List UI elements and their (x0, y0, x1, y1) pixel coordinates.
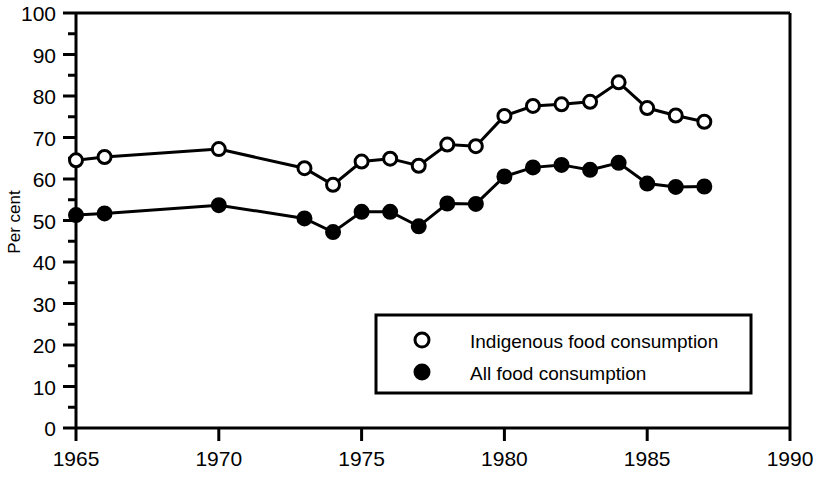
data-point-open-circle-icon (384, 152, 397, 165)
y-tick-label: 50 (33, 210, 56, 233)
data-point-filled-circle-icon (98, 207, 111, 220)
data-point-filled-circle-icon (555, 158, 568, 171)
data-point-filled-circle-icon (355, 205, 368, 218)
y-tick-label: 90 (33, 44, 56, 67)
x-tick-label: 1980 (481, 447, 528, 470)
data-point-filled-circle-icon (298, 212, 311, 225)
data-point-filled-circle-icon (327, 226, 340, 239)
x-tick-label: 1970 (195, 447, 242, 470)
data-point-open-circle-icon (441, 138, 454, 151)
y-axis-tick-labels: 0102030405060708090100 (21, 2, 56, 440)
series-line (76, 82, 704, 185)
y-tick-label: 30 (33, 293, 56, 316)
data-point-open-circle-icon (698, 115, 711, 128)
data-point-filled-circle-icon (641, 177, 654, 190)
data-point-open-circle-icon (669, 109, 682, 122)
data-point-filled-circle-icon (612, 156, 625, 169)
data-point-filled-circle-icon (70, 209, 83, 222)
legend-label-indigenous: Indigenous food consumption (470, 331, 718, 352)
data-point-open-circle-icon (70, 154, 83, 167)
x-axis-tick-labels: 196519701975198019851990 (53, 447, 814, 470)
series-line (76, 163, 704, 232)
y-tick-label: 100 (21, 2, 56, 25)
data-point-filled-circle-icon (526, 161, 539, 174)
x-axis-ticks (76, 428, 790, 441)
data-point-open-circle-icon (584, 95, 597, 108)
x-tick-label: 1965 (53, 447, 100, 470)
data-point-filled-circle-icon (412, 220, 425, 233)
y-axis-title: Per cent (5, 190, 24, 254)
data-series-layer (70, 76, 711, 239)
data-point-filled-circle-icon (698, 180, 711, 193)
data-point-open-circle-icon (498, 109, 511, 122)
data-point-open-circle-icon (555, 98, 568, 111)
chart-container: 0102030405060708090100 19651970197519801… (0, 0, 815, 481)
data-point-filled-circle-icon (669, 180, 682, 193)
data-point-open-circle-icon (641, 102, 654, 115)
data-point-filled-circle-icon (212, 199, 225, 212)
y-tick-label: 70 (33, 127, 56, 150)
legend: Indigenous food consumption All food con… (376, 315, 751, 393)
data-point-filled-circle-icon (469, 197, 482, 210)
line-chart: 0102030405060708090100 19651970197519801… (0, 0, 815, 481)
data-point-open-circle-icon (526, 99, 539, 112)
y-tick-label: 0 (44, 417, 56, 440)
y-tick-label: 10 (33, 376, 56, 399)
y-tick-label: 40 (33, 251, 56, 274)
legend-marker-open-circle-icon (415, 333, 429, 347)
series-2 (70, 156, 711, 238)
data-point-filled-circle-icon (584, 163, 597, 176)
legend-marker-filled-circle-icon (415, 365, 429, 379)
data-point-open-circle-icon (298, 162, 311, 175)
data-point-open-circle-icon (327, 178, 340, 191)
y-tick-label: 60 (33, 168, 56, 191)
legend-label-all-food: All food consumption (470, 363, 646, 384)
data-point-open-circle-icon (98, 151, 111, 164)
x-tick-label: 1990 (767, 447, 814, 470)
data-point-open-circle-icon (355, 155, 368, 168)
data-point-open-circle-icon (612, 76, 625, 89)
data-point-open-circle-icon (212, 143, 225, 156)
x-tick-label: 1975 (338, 447, 385, 470)
series-1 (70, 76, 711, 192)
data-point-filled-circle-icon (441, 197, 454, 210)
data-point-filled-circle-icon (384, 205, 397, 218)
x-tick-label: 1985 (624, 447, 671, 470)
data-point-open-circle-icon (412, 159, 425, 172)
data-point-filled-circle-icon (498, 170, 511, 183)
y-tick-label: 80 (33, 85, 56, 108)
y-tick-label: 20 (33, 334, 56, 357)
data-point-open-circle-icon (469, 140, 482, 153)
